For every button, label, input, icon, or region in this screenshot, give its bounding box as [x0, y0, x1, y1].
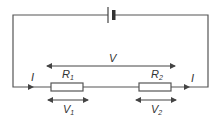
- resistor-r1: [51, 83, 83, 91]
- current-arrow-left: [28, 84, 34, 90]
- current-label-left: I: [31, 71, 34, 83]
- resistor-r2: [139, 83, 171, 91]
- resistor-label-r1: R1: [62, 68, 74, 81]
- battery-icon: [108, 7, 116, 23]
- resistor-label-r2: R2: [151, 68, 163, 81]
- circuit-wires: [13, 15, 208, 87]
- series-circuit-diagram: I I R1 R2 V V1 V2: [0, 0, 219, 122]
- current-label-right: I: [191, 72, 194, 84]
- current-arrow-right: [184, 84, 190, 90]
- voltage-label-total: V: [109, 52, 118, 64]
- voltage-label-v2: V2: [151, 103, 162, 116]
- voltage-label-v1: V1: [63, 103, 74, 116]
